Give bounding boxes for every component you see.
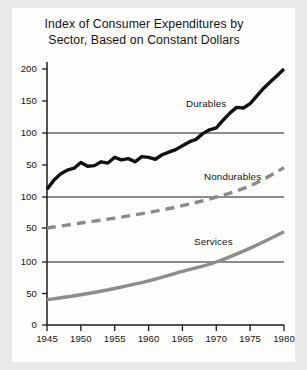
series-label-services: Services (194, 236, 233, 247)
y-axis-tick-label: 50 (7, 159, 37, 170)
chart-figure: Index of Consumer Expenditures by Sector… (0, 0, 307, 370)
y-axis-tick-label: 50 (7, 222, 37, 233)
y-axis-tick-label: 50 (7, 288, 37, 299)
y-axis-tick-label: 100 (7, 127, 37, 138)
x-axis-tick-label: 1945 (30, 333, 64, 344)
x-axis-tick-label: 1975 (233, 333, 267, 344)
y-axis-tick-label: 0 (7, 319, 37, 330)
y-axis-tick-label: 150 (7, 95, 37, 106)
y-axis-tick-label: 200 (7, 63, 37, 74)
series-label-durables: Durables (186, 98, 226, 109)
x-axis-tick-label: 1955 (98, 333, 132, 344)
chart-plot-area (0, 0, 307, 370)
y-axis-tick-label: 100 (7, 256, 37, 267)
x-axis-tick-label: 1970 (199, 333, 233, 344)
x-axis-tick-label: 1965 (165, 333, 199, 344)
y-axis-tick-label: 100 (7, 191, 37, 202)
x-axis-tick-label: 1980 (267, 333, 301, 344)
x-axis-tick-label: 1950 (64, 333, 98, 344)
series-label-nondurables: Nondurables (204, 171, 261, 182)
x-axis-tick-label: 1960 (132, 333, 166, 344)
series-line-services (47, 232, 284, 300)
